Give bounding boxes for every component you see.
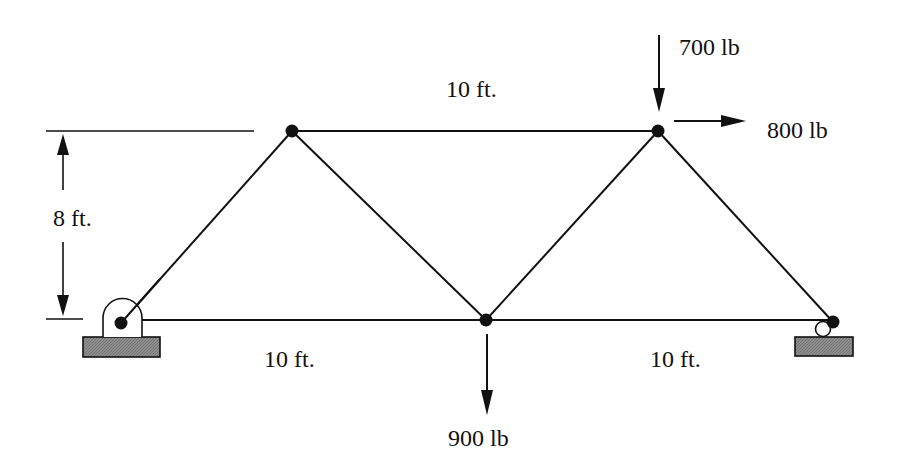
node-left-support: [115, 317, 128, 330]
member-center-right-diagonal: [486, 131, 658, 320]
member-center-left-diagonal: [292, 131, 486, 320]
height-label: 8 ft.: [53, 205, 92, 231]
load-700-label: 700 lb: [679, 34, 740, 60]
arrow-right-icon: [721, 115, 746, 127]
pedestal-right: [795, 337, 853, 356]
node-right-support: [827, 316, 840, 329]
node-bottom-middle: [480, 314, 493, 327]
truss-diagram: 8 ft. 700 lb 800 lb 900: [0, 0, 897, 466]
node-top-left: [286, 125, 299, 138]
bottom-right-span-label: 10 ft.: [650, 346, 701, 372]
arrow-down-icon: [481, 390, 493, 415]
pin-support-left: [83, 279, 160, 357]
arrow-down-icon: [57, 295, 69, 316]
load-900-label: 900 lb: [448, 425, 509, 451]
load-900: 900 lb: [448, 334, 509, 451]
member-right-diagonal: [658, 131, 833, 322]
load-700: 700 lb: [653, 34, 740, 112]
bottom-left-span-label: 10 ft.: [264, 346, 315, 372]
roller-support-right: [795, 316, 853, 357]
node-top-right: [652, 125, 665, 138]
load-800: 800 lb: [674, 115, 828, 143]
load-800-label: 800 lb: [767, 117, 828, 143]
truss-members: [121, 131, 833, 323]
arrow-down-icon: [653, 88, 665, 112]
top-span-label: 10 ft.: [446, 76, 497, 102]
pedestal-left: [83, 337, 160, 357]
arrow-up-icon: [57, 134, 69, 155]
